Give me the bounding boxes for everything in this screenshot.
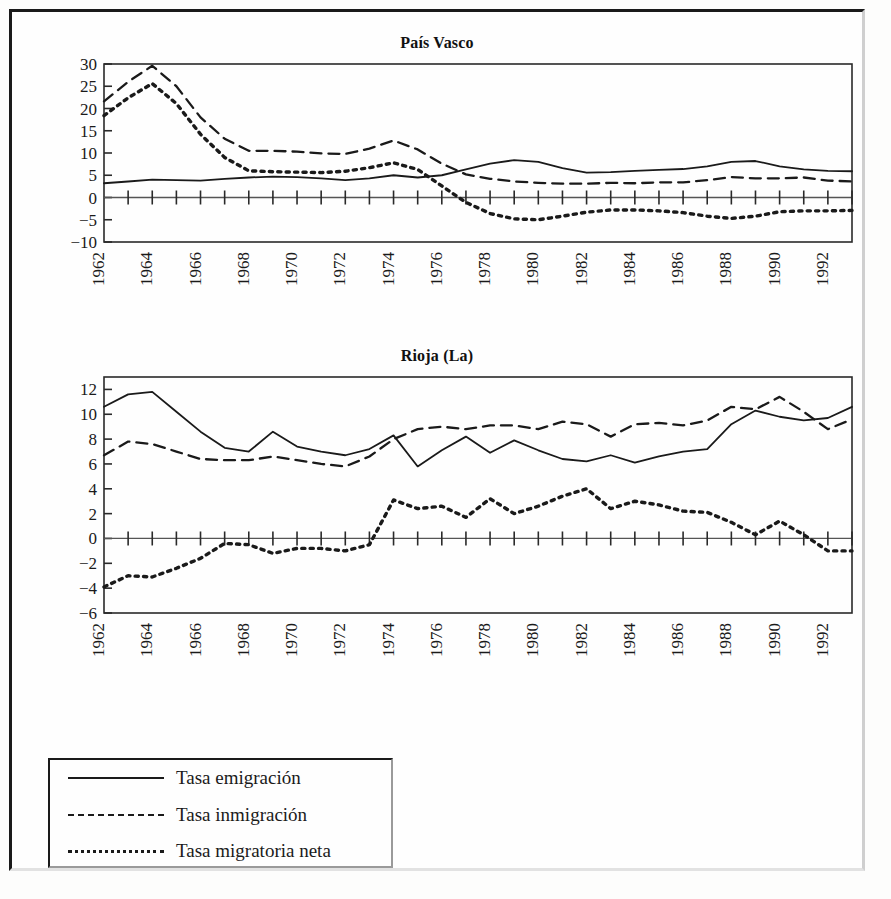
legend-item-neta: Tasa migratoria neta	[50, 833, 391, 870]
x-axis-tick-label: 1968	[234, 623, 253, 657]
x-axis-tick-label: 1976	[427, 623, 446, 657]
chart-svg-rioja-la: 121086420−2−4−61962196419661968197019721…	[12, 369, 862, 717]
series-line-solid	[104, 160, 852, 183]
figure-frame: País Vasco 302520151050−5−10196219641966…	[9, 9, 865, 871]
y-axis-tick-label: 12	[80, 380, 97, 399]
y-axis-tick-label: 25	[80, 77, 97, 96]
x-axis-tick-label: 1986	[668, 623, 687, 657]
x-axis-tick-label: 1984	[620, 623, 639, 658]
figure-page: País Vasco 302520151050−5−10196219641966…	[0, 0, 891, 899]
y-axis-tick-label: 0	[89, 189, 98, 208]
legend-label-emigracion: Tasa emigración	[176, 767, 301, 789]
x-axis-tick-label: 1974	[379, 623, 398, 658]
x-axis-tick-label: 1964	[137, 252, 156, 287]
series-legend: Tasa emigración Tasa inmigración Tasa mi…	[48, 758, 393, 868]
x-axis-tick-label: 1988	[716, 252, 735, 286]
y-axis-tick-label: 10	[80, 144, 97, 163]
x-axis-tick-label: 1982	[572, 252, 591, 286]
x-axis-tick-label: 1986	[668, 252, 687, 286]
y-axis-tick-label: 30	[80, 56, 97, 74]
x-axis-tick-label: 1978	[475, 623, 494, 657]
legend-item-inmigracion: Tasa inmigración	[50, 797, 391, 834]
legend-label-inmigracion: Tasa inmigración	[176, 804, 307, 826]
legend-label-neta: Tasa migratoria neta	[176, 840, 331, 862]
x-axis-tick-label: 1990	[765, 252, 784, 286]
chart-svg-pais-vasco: 302520151050−5−1019621964196619681970197…	[12, 56, 862, 346]
x-axis-tick-label: 1970	[282, 252, 301, 286]
x-axis-tick-label: 1976	[427, 252, 446, 286]
x-axis-tick-label: 1968	[234, 252, 253, 286]
y-axis-tick-label: 2	[89, 505, 98, 524]
x-axis-tick-label: 1964	[137, 623, 156, 658]
x-axis-tick-label: 1972	[330, 623, 349, 657]
x-axis-tick-label: 1962	[89, 252, 108, 286]
x-axis-tick-label: 1990	[765, 623, 784, 657]
series-line-dashed	[104, 397, 852, 467]
y-axis-tick-label: −2	[79, 554, 97, 573]
x-axis-tick-label: 1980	[523, 252, 542, 286]
x-axis-tick-label: 1972	[330, 252, 349, 286]
x-axis-tick-label: 1974	[379, 252, 398, 287]
x-axis-tick-label: 1978	[475, 252, 494, 286]
y-axis-tick-label: 8	[89, 430, 98, 449]
legend-key-dotted-line-icon	[68, 850, 164, 853]
chart-panel-rioja-la: Rioja (La) 121086420−2−4−619621964196619…	[12, 347, 862, 717]
plot-frame	[104, 64, 852, 242]
y-axis-tick-label: 15	[80, 122, 97, 141]
y-axis-tick-label: −4	[79, 579, 98, 598]
y-axis-tick-label: 5	[89, 166, 98, 185]
x-axis-tick-label: 1980	[523, 623, 542, 657]
x-axis-tick-label: 1992	[813, 623, 832, 657]
x-axis-tick-label: 1966	[186, 623, 205, 657]
chart-title-pais-vasco: País Vasco	[12, 34, 862, 52]
y-axis-tick-label: −5	[79, 211, 97, 230]
x-axis-tick-label: 1966	[186, 252, 205, 286]
y-axis-tick-label: −10	[70, 233, 97, 252]
series-line-solid	[104, 392, 852, 467]
x-axis-tick-label: 1988	[716, 623, 735, 657]
plot-frame	[104, 377, 852, 613]
x-axis-tick-label: 1962	[89, 623, 108, 657]
y-axis-tick-label: 4	[89, 480, 98, 499]
x-axis-tick-label: 1992	[813, 252, 832, 286]
y-axis-tick-label: 0	[89, 529, 98, 548]
chart-title-rioja-la: Rioja (La)	[12, 347, 862, 365]
y-axis-tick-label: −6	[79, 604, 97, 623]
y-axis-tick-label: 10	[80, 405, 97, 424]
x-axis-tick-label: 1984	[620, 252, 639, 287]
y-axis-tick-label: 20	[80, 100, 97, 119]
x-axis-tick-label: 1982	[572, 623, 591, 657]
legend-key-solid-line-icon	[68, 777, 164, 779]
series-line-dotted	[104, 84, 852, 220]
x-axis-tick-label: 1970	[282, 623, 301, 657]
legend-key-dashed-line-icon	[68, 814, 164, 816]
y-axis-tick-label: 6	[89, 455, 98, 474]
chart-panel-pais-vasco: País Vasco 302520151050−5−10196219641966…	[12, 34, 862, 344]
legend-item-emigracion: Tasa emigración	[50, 760, 391, 797]
